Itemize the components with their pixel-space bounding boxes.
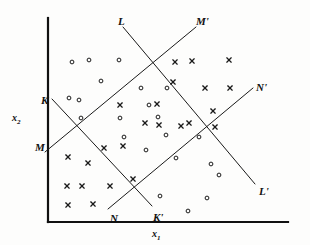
data-point-cross [228, 86, 232, 90]
data-point-circle [217, 173, 221, 177]
data-point-circle [79, 116, 83, 120]
data-point-cross [121, 144, 125, 148]
data-point-cross [66, 203, 70, 207]
line-label-l: L [118, 16, 125, 27]
data-point-circle [67, 96, 71, 100]
line-label-k: K [41, 95, 48, 106]
boundary-line-l-lp [123, 27, 255, 184]
data-point-circle [165, 86, 169, 90]
data-point-cross [102, 146, 106, 150]
data-point-circle [117, 58, 121, 62]
line-label-kp: K' [153, 212, 163, 223]
data-point-circle [205, 196, 209, 200]
data-point-circle [77, 98, 81, 102]
data-point-circle [70, 60, 74, 64]
data-point-circle [147, 103, 151, 107]
data-point-cross [143, 121, 147, 125]
data-point-circle [139, 86, 143, 90]
boundary-lines-group [45, 27, 255, 209]
data-point-circle [164, 133, 168, 137]
data-point-circle [144, 148, 148, 152]
line-label-lp: L' [259, 186, 269, 197]
y-axis-label: x2 [12, 113, 21, 126]
data-point-cross [91, 202, 95, 206]
data-point-circle [174, 156, 178, 160]
data-point-cross [155, 102, 159, 106]
data-point-circle [156, 115, 160, 119]
data-point-circle [186, 209, 190, 213]
plot-svg [0, 0, 310, 245]
data-point-cross [171, 80, 175, 84]
data-point-circle [158, 194, 162, 198]
data-point-cross [157, 123, 161, 127]
data-point-cross [187, 121, 191, 125]
data-point-cross [108, 184, 112, 188]
data-point-circle [122, 135, 126, 139]
data-point-cross [203, 86, 207, 90]
data-point-cross [86, 161, 90, 165]
data-markers-group [65, 58, 232, 213]
data-point-cross [213, 125, 217, 129]
data-point-circle [118, 116, 122, 120]
data-point-cross [179, 124, 183, 128]
line-label-n: N [110, 213, 118, 224]
data-point-circle [87, 58, 91, 62]
line-label-mp: M' [196, 16, 209, 27]
x-axis-label: x1 [152, 229, 161, 242]
data-point-cross [211, 109, 215, 113]
data-point-cross [190, 59, 194, 63]
data-point-circle [209, 162, 213, 166]
data-point-cross [131, 177, 135, 181]
line-label-np: N' [256, 82, 267, 93]
data-point-cross [66, 155, 70, 159]
data-point-circle [197, 135, 201, 139]
figure-canvas: x2 x1 LM'KN'ML'NK' [0, 0, 310, 245]
data-point-cross [227, 58, 231, 62]
data-point-cross [65, 184, 69, 188]
boundary-line-m-mp [45, 27, 196, 152]
line-label-m: M [35, 142, 45, 153]
boundary-line-k-kp [52, 99, 152, 206]
data-point-cross [173, 60, 177, 64]
boundary-line-n-np [108, 88, 253, 209]
data-point-cross [80, 184, 84, 188]
data-point-cross [118, 103, 122, 107]
data-point-circle [99, 79, 103, 83]
